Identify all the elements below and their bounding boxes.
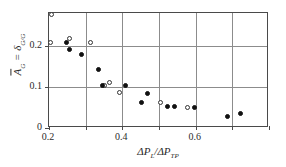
y-axis-tick-label: 0.1 xyxy=(14,80,42,91)
data-point-filled-circles xyxy=(67,47,72,52)
y-axis-tick xyxy=(45,87,49,88)
x-axis-tick-label: 0.2 xyxy=(33,131,63,142)
x-axis-tick xyxy=(269,126,270,130)
y-axis-tick-label: 0.2 xyxy=(14,39,42,50)
x-axis-tick xyxy=(122,126,123,130)
y-axis-label-equals xyxy=(11,61,23,64)
plot-area xyxy=(48,12,268,127)
data-point-open-circles xyxy=(117,90,122,95)
gridline-vertical xyxy=(86,13,87,126)
data-point-open-circles xyxy=(185,105,190,110)
data-point-filled-circles xyxy=(79,52,84,57)
x-axis-tick xyxy=(232,126,233,130)
x-axis-tick xyxy=(196,126,197,130)
x-axis-tick xyxy=(86,126,87,130)
data-point-filled-circles xyxy=(165,104,170,109)
data-point-filled-circles xyxy=(192,105,197,110)
x-axis-tick xyxy=(49,126,50,130)
data-point-open-circles xyxy=(48,40,53,45)
y-axis-tick xyxy=(45,46,49,47)
x-axis-tick-label: 0.4 xyxy=(106,131,136,142)
data-point-filled-circles xyxy=(123,83,128,88)
data-point-filled-circles xyxy=(100,83,105,88)
data-point-open-circles xyxy=(49,12,54,17)
data-point-filled-circles xyxy=(172,104,177,109)
data-point-open-circles xyxy=(88,40,93,45)
gridline-horizontal xyxy=(49,46,267,47)
data-point-filled-circles xyxy=(225,114,230,119)
y-axis-label-eq: = xyxy=(11,54,23,61)
gridline-horizontal xyxy=(49,87,267,88)
y-axis-tick-label: 0 xyxy=(14,121,42,132)
data-point-open-circles xyxy=(107,80,112,85)
data-point-open-circles xyxy=(158,100,163,105)
gridline-vertical xyxy=(232,13,233,126)
scatter-chart-figure: ΔPL/ΔPTP AG = δG/G 0.20.40.600.10.2 xyxy=(0,0,286,167)
gridline-vertical xyxy=(159,13,160,126)
y-axis-tick xyxy=(45,128,49,129)
data-point-filled-circles xyxy=(64,40,69,45)
y-axis-label-sub-a: G xyxy=(19,64,27,69)
data-point-filled-circles xyxy=(96,67,101,72)
data-point-filled-circles xyxy=(145,91,150,96)
gridline-vertical xyxy=(122,13,123,126)
y-axis-label-abar: A xyxy=(11,69,23,76)
x-axis-label: ΔPL/ΔPTP xyxy=(48,145,268,160)
data-point-filled-circles xyxy=(139,100,144,105)
x-axis-tick xyxy=(159,126,160,130)
x-axis-tick-label: 0.6 xyxy=(180,131,210,142)
data-point-filled-circles xyxy=(238,111,243,116)
x-axis-label-sub2: TP xyxy=(171,152,179,160)
y-axis-label-space2 xyxy=(11,51,23,54)
x-axis-label-p2: P xyxy=(164,145,171,157)
